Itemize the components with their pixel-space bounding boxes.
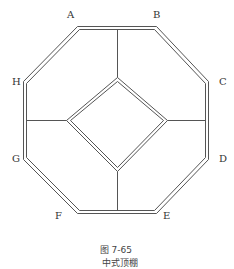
- vertex-label-g: G: [12, 153, 20, 164]
- vertex-label-d: D: [219, 153, 227, 164]
- vertex-label-b: B: [153, 9, 160, 20]
- inner-diamond-outer-line: [67, 78, 168, 172]
- figure-number: 图 7-65: [100, 245, 132, 255]
- figure-title: 中式顶棚: [102, 258, 138, 268]
- inner-diamond: [67, 78, 168, 172]
- vertex-label-f: F: [55, 210, 62, 221]
- figure-caption: 图 7-65 中式顶棚: [0, 233, 234, 269]
- vertex-label-e: E: [163, 210, 170, 221]
- inner-diamond-inner-line: [71, 82, 164, 168]
- vertex-label-h: H: [12, 76, 21, 87]
- vertex-label-a: A: [66, 9, 75, 20]
- vertex-label-c: C: [219, 76, 227, 87]
- vertex-labels: A B C D E F G H: [12, 9, 227, 221]
